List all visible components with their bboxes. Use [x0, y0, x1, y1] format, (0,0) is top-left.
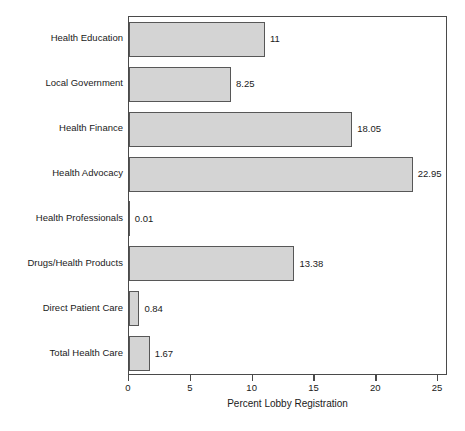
bar-row: [129, 291, 446, 326]
category-label-1: Health Education: [1, 34, 123, 44]
category-label-3: Health Finance: [1, 123, 123, 133]
bar-2: [129, 67, 231, 102]
x-tick-label: 20: [370, 383, 381, 393]
x-tick-label: 15: [308, 383, 319, 393]
bar-value-label: 22.95: [418, 169, 442, 179]
x-tick-mark: [437, 375, 438, 381]
bar-3: [129, 112, 352, 147]
bar-row: [129, 336, 446, 371]
bar-value-label: 0.84: [144, 304, 163, 314]
bar-7: [129, 291, 139, 326]
x-axis: Percent Lobby Registration 0510152025: [128, 375, 447, 431]
bar-row: [129, 157, 446, 192]
bar-row: [129, 246, 446, 281]
category-label-8: Total Health Care: [1, 348, 123, 358]
x-tick-label: 25: [432, 383, 443, 393]
category-label-2: Local Government: [1, 79, 123, 89]
category-label-4: Health Advocacy: [1, 168, 123, 178]
x-axis-title: Percent Lobby Registration: [128, 399, 447, 409]
x-tick-mark: [252, 375, 253, 381]
x-tick-label: 10: [246, 383, 257, 393]
x-tick-mark: [375, 375, 376, 381]
bar-5: [129, 201, 130, 236]
x-tick-label: 5: [187, 383, 192, 393]
bar-6: [129, 246, 294, 281]
bar-chart: Health EducationLocal GovernmentHealth F…: [0, 0, 465, 431]
bar-8: [129, 336, 150, 371]
bar-row: [129, 201, 446, 236]
x-tick-mark: [128, 375, 129, 381]
bar-row: [129, 112, 446, 147]
bar-row: [129, 67, 446, 102]
x-tick-mark: [190, 375, 191, 381]
x-tick-mark: [313, 375, 314, 381]
bar-value-label: 1.67: [155, 349, 174, 359]
bar-1: [129, 22, 265, 57]
bar-value-label: 13.38: [299, 259, 323, 269]
category-axis: Health EducationLocal GovernmentHealth F…: [0, 16, 123, 375]
bar-4: [129, 157, 413, 192]
bar-value-label: 11: [270, 35, 280, 45]
category-label-5: Health Professionals: [1, 213, 123, 223]
x-tick-label: 0: [125, 383, 130, 393]
bar-value-label: 0.01: [135, 214, 154, 224]
bar-row: [129, 22, 446, 57]
category-label-6: Drugs/Health Products: [1, 258, 123, 268]
bar-value-label: 18.05: [357, 124, 381, 134]
plot-area: 118.2518.0522.950.0113.380.841.67: [128, 16, 447, 375]
bar-value-label: 8.25: [236, 80, 255, 90]
category-label-7: Direct Patient Care: [1, 303, 123, 313]
